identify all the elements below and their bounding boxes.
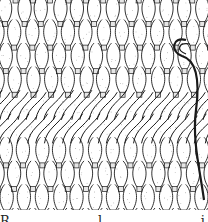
shading-dot <box>167 52 168 53</box>
shading-dot <box>86 34 87 35</box>
shading-dot <box>27 61 28 62</box>
shading-dot <box>129 193 130 194</box>
shading-dot <box>199 55 200 56</box>
shading-dot <box>49 89 50 90</box>
shading-dot <box>36 10 37 11</box>
shading-dot <box>129 202 130 203</box>
shading-dot <box>2 55 3 56</box>
stitch-loop <box>35 43 42 73</box>
shading-dot <box>39 154 40 155</box>
shading-dot <box>120 176 121 177</box>
shading-dot <box>111 61 112 62</box>
shading-dot <box>115 16 116 17</box>
shading-dot <box>117 169 118 170</box>
shading-dot <box>18 176 19 177</box>
shading-dot <box>163 10 164 11</box>
stitch-loop <box>68 67 75 97</box>
shading-dot <box>96 106 97 107</box>
shading-dot <box>111 149 112 150</box>
shading-dot <box>186 2 187 3</box>
shading-dot <box>133 156 134 157</box>
shading-dot <box>106 168 107 169</box>
shading-dot <box>73 199 74 200</box>
knitted-fabric-illustration <box>0 0 208 210</box>
shading-dot <box>179 195 180 196</box>
shading-dot <box>139 168 140 169</box>
figure-caption: R . . . . . . . . l . . . . . . . . . i … <box>0 210 208 222</box>
stitch-interlock <box>155 0 160 3</box>
shading-dot <box>151 103 152 104</box>
stitch-interlock <box>110 163 115 168</box>
stitch-loop <box>15 67 22 97</box>
shading-dot <box>99 65 100 66</box>
shading-dot <box>157 35 158 36</box>
stitch-loop <box>160 137 167 167</box>
shading-dot <box>194 181 195 182</box>
stitch-interlock <box>13 0 18 3</box>
stitch-interlock <box>181 163 186 168</box>
shading-dot <box>120 83 121 84</box>
shading-dot <box>153 58 154 59</box>
shading-dot <box>95 100 96 101</box>
shading-dot <box>74 18 75 19</box>
shading-dot <box>32 35 33 36</box>
shading-dot <box>92 52 93 53</box>
shading-dot <box>27 192 28 193</box>
shading-dot <box>148 6 149 7</box>
shading-dot <box>206 84 207 85</box>
shading-dot <box>20 55 21 56</box>
stitch-loop <box>186 20 193 50</box>
shading-dot <box>199 9 200 10</box>
stitch-loop <box>152 67 159 97</box>
shading-dot <box>41 108 42 109</box>
stitch-interlock <box>119 0 124 3</box>
stitch-loop <box>139 161 146 191</box>
shading-dot <box>111 112 112 113</box>
shading-dot <box>76 60 77 61</box>
stitch-interlock <box>129 22 134 27</box>
stitch-loop <box>35 184 42 210</box>
shading-dot <box>9 58 10 59</box>
shading-dot <box>132 10 133 11</box>
stitch-loop <box>77 184 84 210</box>
shading-dot <box>12 88 13 89</box>
stitch-interlock <box>102 186 107 191</box>
shading-dot <box>193 183 194 184</box>
shading-dot <box>116 112 117 113</box>
shading-dot <box>183 152 184 153</box>
stitch-interlock <box>155 45 160 50</box>
shading-dot <box>157 182 158 183</box>
shading-dot <box>83 38 84 39</box>
shading-dot <box>93 113 94 114</box>
shading-dot <box>147 17 148 18</box>
shading-dot <box>59 61 60 62</box>
stitch-interlock <box>165 69 170 74</box>
shading-dot <box>89 32 90 33</box>
shading-dot <box>76 158 77 159</box>
shading-dot <box>40 198 41 199</box>
stitch-interlock <box>47 0 52 3</box>
shading-dot <box>27 109 28 110</box>
shading-dot <box>119 32 120 33</box>
shading-dot <box>104 27 105 28</box>
shading-dot <box>44 9 45 10</box>
shading-dot <box>65 39 66 40</box>
stitch-loop <box>97 20 104 50</box>
shading-dot <box>81 172 82 173</box>
stitch-interlock <box>21 69 26 74</box>
shading-dot <box>37 181 38 182</box>
shading-dot <box>86 83 87 84</box>
shading-dot <box>70 126 71 127</box>
stitch-interlock <box>200 163 205 168</box>
shading-dot <box>8 194 9 195</box>
shading-dot <box>139 126 140 127</box>
shading-dot <box>56 55 57 56</box>
stitch-interlock <box>111 69 116 74</box>
shading-dot <box>30 136 31 137</box>
stitch-loop <box>80 67 87 97</box>
shading-dot <box>77 112 78 113</box>
shading-dot <box>94 16 95 17</box>
stitch-interlock <box>146 69 151 74</box>
shading-dot <box>179 108 180 109</box>
shading-dot <box>170 145 171 146</box>
